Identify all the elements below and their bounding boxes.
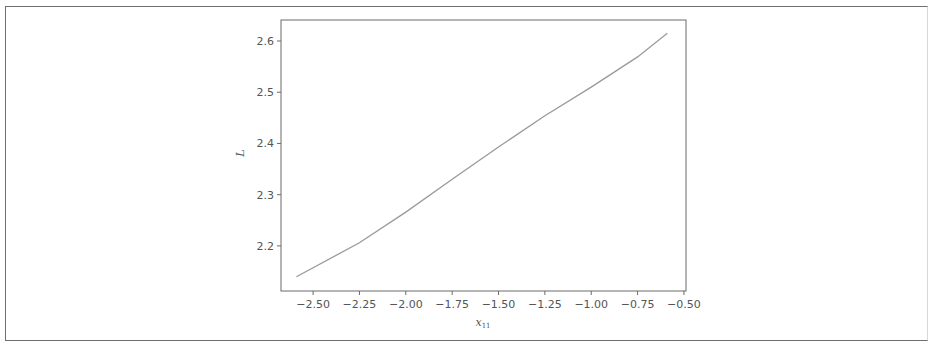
x-tick-label: −1.00: [574, 298, 608, 311]
y-tick-label: 2.3: [257, 189, 275, 202]
x-tick-label: −0.50: [667, 298, 701, 311]
data-line: [296, 33, 667, 276]
x-tick-label: −1.25: [528, 298, 562, 311]
x-tick-label: −1.75: [435, 298, 469, 311]
x-axis-label-subscript: 11: [482, 322, 491, 330]
x-tick-label: −2.25: [343, 298, 377, 311]
x-tick-label: −0.75: [621, 298, 655, 311]
x-tick-label: −2.00: [389, 298, 423, 311]
plot-area: [281, 20, 686, 291]
x-axis-label: x11: [475, 316, 490, 330]
x-tick-label: −1.50: [482, 298, 516, 311]
y-tick-label: 2.4: [257, 137, 275, 150]
axes-spines: [281, 20, 686, 291]
y-axis-label: L: [234, 149, 247, 157]
x-tick-label: −2.50: [296, 298, 330, 311]
x-axis-ticks: −2.50−2.25−2.00−1.75−1.50−1.25−1.00−0.75…: [296, 291, 701, 311]
y-tick-label: 2.2: [257, 240, 275, 253]
line-chart: −2.50−2.25−2.00−1.75−1.50−1.25−1.00−0.75…: [0, 0, 932, 351]
y-axis-ticks: 2.22.32.42.52.6: [257, 35, 282, 253]
y-tick-label: 2.6: [257, 35, 275, 48]
y-tick-label: 2.5: [257, 86, 275, 99]
